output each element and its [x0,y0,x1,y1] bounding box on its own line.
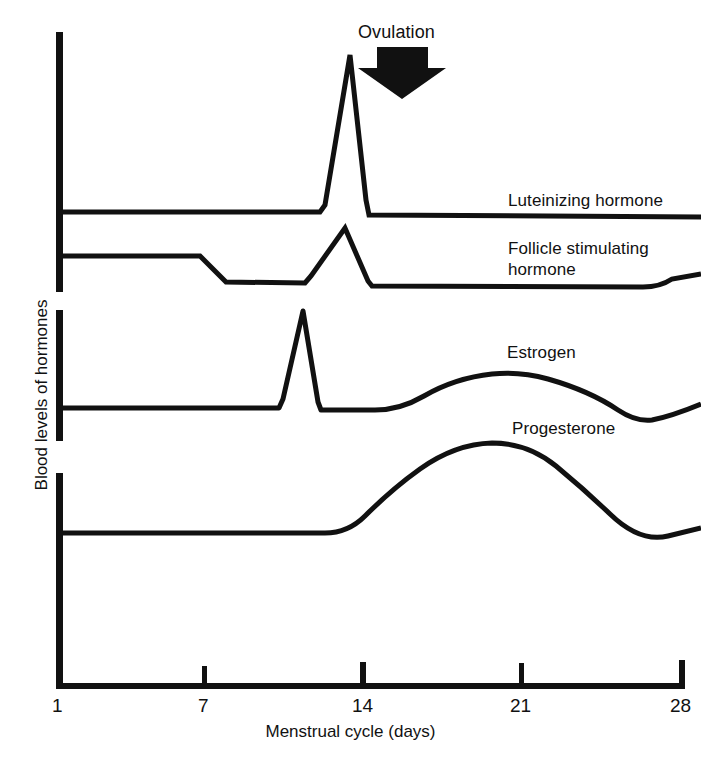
fsh-label-line-2: hormone [508,260,576,279]
x-tick-label-28: 28 [670,695,691,717]
fsh-label-line-1: Follicle stimulating [508,239,649,258]
x-tick-label-21: 21 [510,695,531,717]
x-tick-label-1: 1 [52,695,63,717]
y-axis-segment-top [56,32,63,292]
x-tick-day-14 [360,662,366,685]
series-label-estrogen: Estrogen [507,342,576,363]
x-tick-day-21 [519,663,524,685]
ovulation-arrow-icon [358,47,446,99]
y-axis-segment-bottom [56,473,63,689]
series-label-follicle-stimulating-hormone: Follicle stimulatinghormone [508,238,649,280]
axis-group [56,32,685,689]
y-axis-title: Blood levels of hormones [32,245,52,545]
curve-estrogen [59,311,701,420]
x-tick-label-7: 7 [198,695,209,717]
x-tick-day-28 [679,660,685,685]
x-axis-title: Menstrual cycle (days) [0,722,701,742]
curve-progesterone [59,443,701,537]
series-label-progesterone: Progesterone [512,418,615,439]
x-tick-day-7 [202,666,207,685]
ovulation-annotation-label: Ovulation [358,22,435,43]
hormone-cycle-figure: Ovulation Luteinizing hormone Follicle s… [0,0,701,758]
y-axis-segment-middle [56,310,63,441]
series-label-luteinizing-hormone: Luteinizing hormone [508,190,663,211]
x-axis-line [56,683,685,689]
x-tick-label-14: 14 [352,695,373,717]
chart-canvas [0,0,701,758]
